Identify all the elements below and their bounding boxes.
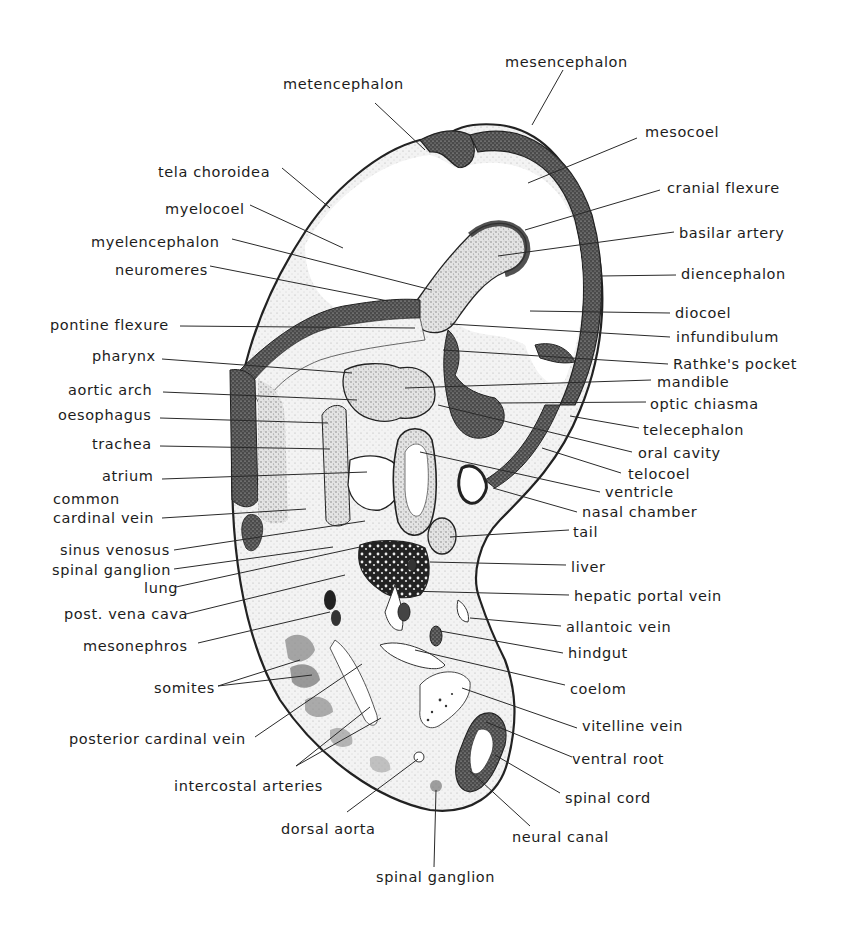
label-spinal-cord: spinal cord bbox=[565, 790, 651, 806]
label-atrium: atrium bbox=[102, 468, 153, 484]
label-neuromeres: neuromeres bbox=[115, 262, 208, 278]
label-post-vena-cava: post. vena cava bbox=[64, 606, 188, 622]
leader-line bbox=[282, 168, 330, 208]
label-intercostal-arteries: intercostal arteries bbox=[174, 778, 323, 794]
label-mesocoel: mesocoel bbox=[645, 124, 719, 140]
leader-line bbox=[375, 103, 425, 150]
leader-line bbox=[570, 416, 639, 428]
leader-line bbox=[600, 275, 676, 276]
label-pharynx: pharynx bbox=[92, 348, 156, 364]
label-posterior-cardinal-vein: posterior cardinal vein bbox=[69, 731, 246, 747]
label-diencephalon: diencephalon bbox=[681, 266, 786, 282]
label-diocoel: diocoel bbox=[675, 305, 731, 321]
label-telecephalon: telecephalon bbox=[643, 422, 744, 438]
label-optic-chiasma: optic chiasma bbox=[650, 396, 759, 412]
label-myelocoel: myelocoel bbox=[165, 201, 245, 217]
label-hindgut: hindgut bbox=[568, 645, 628, 661]
leader-line bbox=[495, 755, 560, 793]
label-ventricle: ventricle bbox=[605, 484, 674, 500]
label-dorsal-aorta: dorsal aorta bbox=[281, 821, 376, 837]
label-sinus-venosus: sinus venosus bbox=[60, 542, 170, 558]
embryo-section-diagram: metencephalontela choroideamyelocoelmyel… bbox=[0, 0, 851, 930]
label-telocoel: telocoel bbox=[628, 466, 690, 482]
label-tela-choroidea: tela choroidea bbox=[158, 164, 270, 180]
label-oral-cavity: oral cavity bbox=[638, 445, 721, 461]
label-pontine-flexure: pontine flexure bbox=[50, 317, 169, 333]
label-common-cardinal-vein-1: common bbox=[53, 491, 120, 507]
label-mesonephros: mesonephros bbox=[83, 638, 188, 654]
label-somites: somites bbox=[154, 680, 215, 696]
leader-line bbox=[532, 70, 563, 125]
label-trachea: trachea bbox=[92, 436, 152, 452]
label-liver: liver bbox=[571, 559, 606, 575]
label-common-cardinal-vein: cardinal vein bbox=[53, 510, 154, 526]
label-hepatic-portal-vein: hepatic portal vein bbox=[574, 588, 722, 604]
diagram-artwork bbox=[0, 0, 851, 930]
label-cranial-flexure: cranial flexure bbox=[667, 180, 780, 196]
label-nasal-chamber: nasal chamber bbox=[582, 504, 697, 520]
label-basilar-artery: basilar artery bbox=[679, 225, 785, 241]
label-metencephalon: metencephalon bbox=[283, 76, 404, 92]
label-mesencephalon: mesencephalon bbox=[505, 54, 628, 70]
label-lung: lung bbox=[144, 580, 178, 596]
label-oesophagus: oesophagus bbox=[58, 407, 151, 423]
label-allantoic-vein: allantoic vein bbox=[566, 619, 671, 635]
label-spinal-ganglion-upper: spinal ganglion bbox=[52, 562, 171, 578]
label-neural-canal: neural canal bbox=[512, 829, 609, 845]
label-infundibulum: infundibulum bbox=[676, 329, 779, 345]
label-vitelline-vein: vitelline vein bbox=[582, 718, 683, 734]
label-tail: tail bbox=[573, 524, 598, 540]
label-mandible: mandible bbox=[657, 374, 729, 390]
label-myelencephalon: myelencephalon bbox=[91, 234, 219, 250]
label-rathkes-pocket: Rathke's pocket bbox=[673, 356, 797, 372]
label-ventral-root: ventral root bbox=[572, 751, 664, 767]
label-aortic-arch: aortic arch bbox=[68, 382, 152, 398]
label-coelom: coelom bbox=[570, 681, 626, 697]
label-spinal-ganglion-lower: spinal ganglion bbox=[376, 869, 495, 885]
